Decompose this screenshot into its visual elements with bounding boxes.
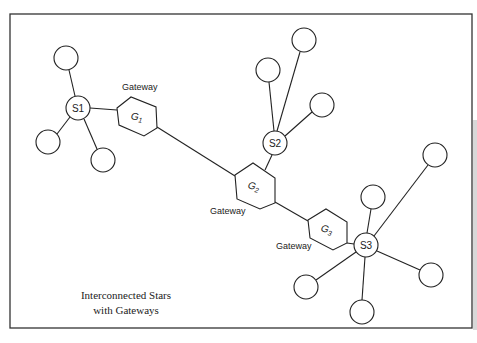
gateway-caption-g3: Gateway xyxy=(276,241,312,251)
caption-line-1: Interconnected Stars xyxy=(81,289,171,301)
scan-edge-shadow xyxy=(473,120,477,330)
hub-label-s1: S1 xyxy=(72,103,85,114)
leaf-node xyxy=(91,148,115,172)
leaf-node xyxy=(310,93,334,117)
leaf-node xyxy=(54,46,78,70)
gateway-caption-g1: Gateway xyxy=(122,82,158,92)
leaf-node xyxy=(350,300,374,324)
leaf-node xyxy=(361,185,385,209)
hub-label-s3: S3 xyxy=(360,240,373,251)
gateway-caption-g2: Gateway xyxy=(210,206,246,216)
star-network-diagram: S1 S2 S3 G1 G2 G3 Gateway Gateway Gatewa… xyxy=(0,0,477,343)
leaf-node xyxy=(419,263,443,287)
caption-line-2: with Gateways xyxy=(93,304,159,316)
leaf-node xyxy=(292,28,316,52)
hub-label-s2: S2 xyxy=(269,138,282,149)
leaf-node xyxy=(256,58,280,82)
leaf-node xyxy=(294,275,318,299)
leaf-node xyxy=(423,143,447,167)
leaf-node xyxy=(36,130,60,154)
